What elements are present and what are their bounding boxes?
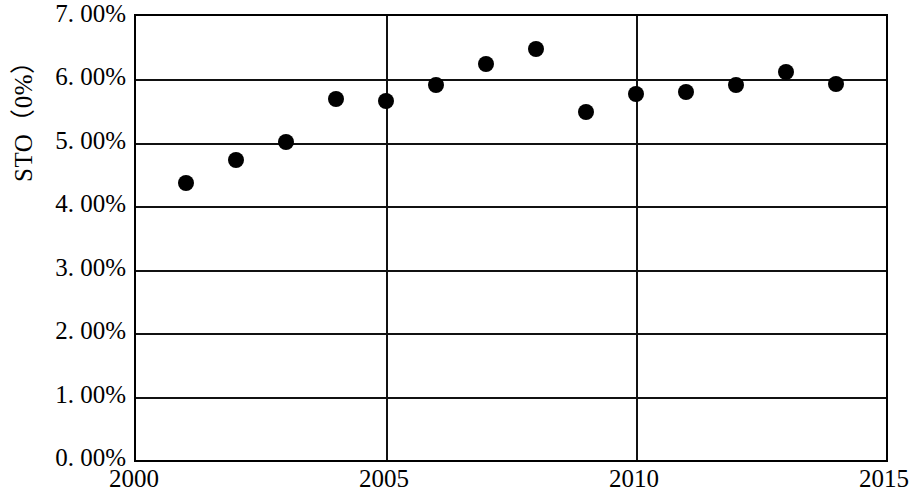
data-point [378,93,394,109]
x-gridline [386,16,388,460]
data-point [178,175,194,191]
data-point [328,91,344,107]
x-tick-label: 2005 [324,466,444,492]
y-gridline [136,206,886,208]
data-point [578,104,594,120]
plot-area [134,14,888,462]
data-point [728,77,744,93]
x-gridline [636,16,638,460]
data-point [428,77,444,93]
data-point [828,76,844,92]
data-point [528,41,544,57]
data-point [228,152,244,168]
data-point [628,86,644,102]
y-gridline [136,79,886,81]
x-tick-label: 2010 [574,466,694,492]
data-point [678,84,694,100]
scatter-chart: STO（0%） 0. 00%1. 00%2. 00%3. 00%4. 00%5.… [0,0,909,498]
data-point [478,56,494,72]
y-gridline [136,333,886,335]
data-point [778,64,794,80]
x-tick-label: 2000 [74,466,194,492]
data-point [278,134,294,150]
y-gridline [136,270,886,272]
y-gridline [136,143,886,145]
y-gridline [136,397,886,399]
x-tick-label: 2015 [824,466,909,492]
